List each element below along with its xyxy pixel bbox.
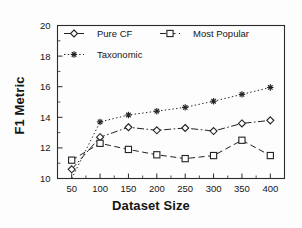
x-tick-label: 100	[92, 183, 108, 194]
data-point-marker	[267, 84, 273, 90]
legend-item-pure-cf: Pure CF	[64, 28, 133, 39]
data-point-marker	[125, 124, 132, 131]
data-point-marker	[239, 137, 245, 143]
data-point-marker	[182, 156, 188, 162]
y-tick-label: 14	[40, 112, 51, 123]
data-point-marker	[71, 51, 77, 57]
series-taxonomic	[72, 84, 274, 178]
data-point-marker	[97, 140, 103, 146]
plot-frame	[58, 26, 285, 179]
x-tick-label: 300	[206, 183, 222, 194]
chart-figure: 10121416182050100150200250300350400 Pure…	[0, 0, 302, 228]
legend-label: Pure CF	[97, 28, 133, 39]
series-line	[72, 87, 271, 178]
data-point-marker	[154, 108, 160, 114]
y-tick-label: 16	[40, 81, 51, 92]
data-point-marker	[239, 91, 245, 97]
data-point-marker	[210, 98, 216, 104]
chart-plot-area: 10121416182050100150200250300350400 Pure…	[0, 0, 302, 228]
data-point-marker	[154, 152, 160, 158]
legend-item-taxonomic: Taxonomic	[64, 49, 143, 60]
data-point-marker	[238, 120, 245, 127]
legend-label: Most Popular	[193, 28, 249, 39]
x-tick-label: 200	[149, 183, 165, 194]
y-axis-title: F1 Metric	[12, 61, 27, 151]
series-most-popular	[69, 137, 274, 163]
y-tick-label: 12	[40, 142, 51, 153]
x-axis-title: Dataset Size	[0, 198, 302, 213]
data-point-marker	[167, 30, 173, 36]
data-point-marker	[182, 125, 189, 132]
data-point-marker	[97, 119, 103, 125]
data-point-marker	[97, 134, 104, 141]
data-point-marker	[125, 146, 131, 152]
data-point-marker	[267, 117, 274, 124]
data-point-marker	[69, 157, 75, 163]
data-point-marker	[71, 30, 78, 37]
x-tick-label: 250	[177, 183, 193, 194]
axes-group: 10121416182050100150200250300350400	[40, 20, 285, 194]
x-tick-label: 400	[262, 183, 278, 194]
data-point-marker	[210, 128, 217, 135]
data-point-marker	[182, 104, 188, 110]
y-tick-label: 10	[40, 173, 51, 184]
x-tick-label: 150	[121, 183, 137, 194]
chart-legend: Pure CFMost PopularTaxonomic	[64, 28, 249, 60]
series-group	[68, 84, 274, 178]
y-tick-label: 18	[40, 51, 51, 62]
data-point-marker	[267, 152, 273, 158]
x-tick-label: 350	[234, 183, 250, 194]
y-tick-label: 20	[40, 20, 51, 31]
data-point-marker	[125, 112, 131, 118]
data-point-marker	[210, 152, 216, 158]
data-point-marker	[153, 127, 160, 134]
x-tick-label: 50	[66, 183, 77, 194]
legend-item-most-popular: Most Popular	[160, 28, 249, 39]
legend-label: Taxonomic	[97, 49, 143, 60]
